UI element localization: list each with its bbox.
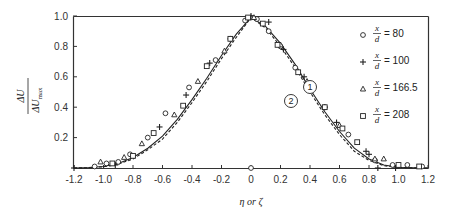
triangle-icon — [360, 86, 365, 91]
square-marker — [322, 105, 327, 110]
y-tick-label: 0.4 — [54, 102, 68, 113]
legend-value: = 208 — [384, 109, 410, 120]
data-points — [71, 13, 425, 171]
circle-marker — [163, 111, 168, 116]
square-marker — [340, 126, 345, 131]
curve-annotations: 12 — [285, 81, 317, 108]
legend-value: = 80 — [384, 28, 404, 39]
legend-fraction-numerator: x — [374, 23, 379, 33]
circle-marker — [346, 132, 351, 137]
x-axis-label: η or ζ — [240, 196, 264, 208]
y-tick-label: 0.2 — [54, 132, 68, 143]
circle-marker — [266, 29, 271, 34]
plus-marker — [266, 19, 272, 25]
x-tick-label: 0.8 — [362, 174, 376, 185]
circle-marker — [116, 160, 121, 165]
square-marker — [296, 70, 301, 75]
square-marker — [228, 36, 233, 41]
square-marker — [110, 161, 115, 166]
circle-marker — [293, 65, 298, 70]
legend-fraction-denominator: d — [375, 34, 380, 44]
triangle-marker — [172, 112, 177, 117]
triangle-marker — [98, 159, 103, 164]
legend-item: xd= 80 — [361, 23, 405, 44]
y-tick-label: 1.0 — [54, 11, 68, 22]
x-tick-label: 1.0 — [392, 174, 406, 185]
legend-value: = 100 — [384, 55, 410, 66]
x-tick-label: -0.8 — [124, 174, 142, 185]
x-tick-label: 0.2 — [274, 174, 288, 185]
circle-icon — [361, 33, 366, 38]
square-marker — [151, 131, 156, 136]
legend-fraction-denominator: d — [375, 88, 380, 98]
legend: xd= 80xd= 100xd= 166.5xd= 208 — [360, 23, 418, 125]
x-tick-label: -0.2 — [213, 174, 231, 185]
circle-marker — [405, 163, 410, 168]
triangle-marker — [139, 141, 144, 146]
y-label-numerator: ΔU — [15, 89, 26, 104]
circle-marker — [213, 58, 218, 63]
x-tick-label: 0.6 — [333, 174, 347, 185]
triangle-marker — [122, 155, 127, 160]
plus-marker — [157, 124, 163, 130]
legend-item: xd= 166.5 — [360, 77, 418, 98]
annotation-label-1: 1 — [307, 82, 312, 92]
square-marker — [181, 103, 186, 108]
legend-value: = 166.5 — [384, 82, 418, 93]
plus-marker — [375, 165, 381, 171]
legend-fraction-denominator: d — [375, 61, 380, 71]
x-tick-label: 0.4 — [303, 174, 317, 185]
square-marker — [275, 42, 280, 47]
square-marker — [204, 64, 209, 69]
legend-fraction-numerator: x — [374, 50, 379, 60]
plus-marker — [363, 148, 369, 154]
x-tick-label: -0.6 — [154, 174, 172, 185]
y-label-denominator: ΔUmax — [30, 87, 44, 114]
plus-marker — [71, 165, 77, 171]
square-icon — [361, 114, 366, 119]
y-axis-label: ΔU ΔUmax — [15, 78, 44, 114]
x-tick-label: -1.2 — [65, 174, 83, 185]
x-tick-label: -0.4 — [183, 174, 201, 185]
square-marker — [355, 140, 360, 145]
plus-marker — [366, 151, 372, 157]
square-marker — [260, 21, 265, 26]
plus-marker — [183, 92, 189, 98]
square-marker — [396, 163, 401, 168]
legend-fraction-denominator: d — [375, 115, 380, 125]
square-marker — [246, 15, 251, 20]
plus-icon — [360, 59, 366, 65]
x-tick-label: 1.2 — [421, 174, 435, 185]
circle-marker — [187, 85, 192, 90]
x-tick-label: -1.0 — [95, 174, 113, 185]
legend-fraction-numerator: x — [374, 104, 379, 114]
triangle-marker — [381, 156, 386, 161]
triangle-marker — [195, 79, 200, 84]
circle-marker — [390, 163, 395, 168]
square-marker — [131, 153, 136, 158]
annotation-label-2: 2 — [288, 96, 293, 106]
circle-marker — [104, 161, 109, 166]
circle-marker — [92, 164, 97, 169]
chart: 0.20.40.60.81.0 -1.2-1.0-0.8-0.6-0.4-0.2… — [0, 0, 454, 219]
legend-item: xd= 208 — [361, 104, 410, 125]
circle-marker — [249, 166, 254, 171]
x-tick-label: 0 — [248, 174, 254, 185]
legend-fraction-numerator: x — [374, 77, 379, 87]
circle-marker — [145, 135, 150, 140]
square-marker — [417, 164, 422, 169]
y-tick-label: 0.6 — [54, 71, 68, 82]
legend-item: xd= 100 — [360, 50, 410, 71]
y-tick-label: 0.8 — [54, 41, 68, 52]
